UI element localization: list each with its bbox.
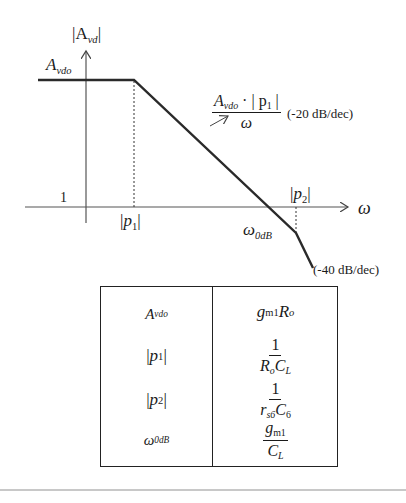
table-row-param-p1: |p1|: [101, 339, 212, 373]
table-row-param-w0db: ω0dB: [101, 423, 212, 457]
dc-gain-label: Avdo: [46, 55, 72, 76]
pole1-label: |p1|: [120, 211, 141, 232]
unity-label: 1: [60, 190, 67, 206]
crossover-label: ω0dB: [243, 220, 272, 241]
table-row-value-p1: 1 RoCL: [213, 333, 338, 379]
table-row-param-p2: |p2|: [101, 383, 212, 417]
slope1-expression: Avdo · | p1 | ω: [212, 92, 281, 132]
pole2-label: |p2|: [290, 184, 311, 205]
table-row-param-avdo: Avdo: [101, 299, 212, 329]
parameter-table: Avdo gm1Ro |p1| 1 RoCL |p2| 1 rs6C6 ω0dB…: [100, 286, 338, 467]
table-row-value-w0db: gm1 CL: [213, 417, 338, 463]
slope2-rate-label: (-40 dB/dec): [313, 262, 379, 278]
bottom-rule: [0, 489, 406, 491]
y-axis-label: |Avd|: [72, 24, 101, 45]
slope1-rate-label: (-20 dB/dec): [287, 106, 353, 122]
table-row-value-avdo: gm1Ro: [213, 297, 338, 327]
x-axis-label: ω: [358, 198, 371, 219]
